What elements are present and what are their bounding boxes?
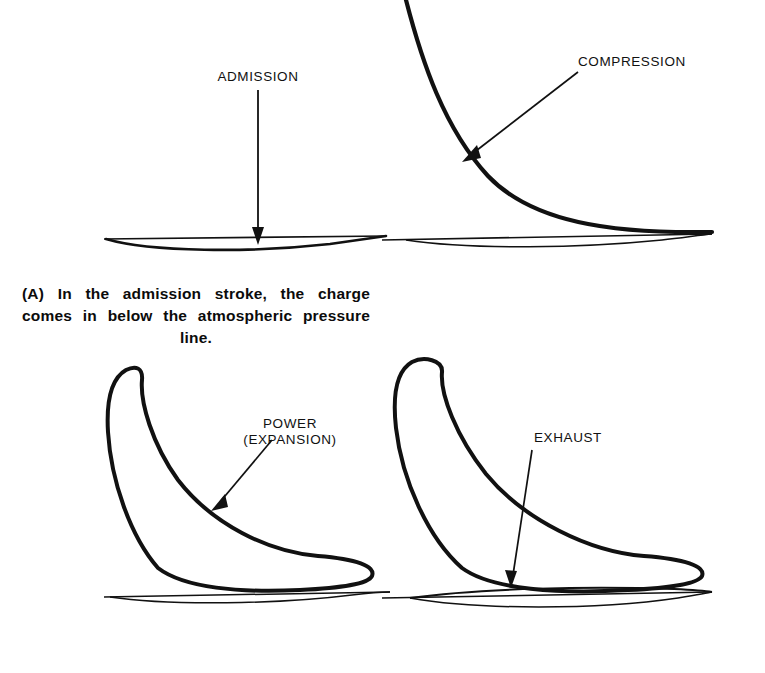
compression-arrow-shaft xyxy=(472,72,578,154)
compression-label: COMPRESSION xyxy=(578,54,686,69)
power-label: POWER xyxy=(263,416,317,431)
atmospheric-pressure-line xyxy=(382,234,712,240)
exhaust-indicator-diagram: EXHAUST xyxy=(382,340,765,673)
power-arrow-head xyxy=(211,494,228,511)
compression-curve xyxy=(406,0,712,232)
panel-admission: ADMISSION (A) In the admission stroke, t… xyxy=(0,0,390,340)
panel-power: POWER (EXPANSION) (C) In the power strok… xyxy=(0,340,390,673)
panel-exhaust: EXHAUST (D) In the exhaust stroke, all t… xyxy=(382,340,765,673)
four-stroke-cycle-figure: ADMISSION (A) In the admission stroke, t… xyxy=(0,0,765,673)
exhaust-return-curve xyxy=(406,234,712,247)
power-indicator-diagram: POWER (EXPANSION) xyxy=(0,340,390,673)
power-arrow-shaft xyxy=(220,440,272,502)
panel-compression: COMPRESSION (B) In the compression strok… xyxy=(382,0,765,340)
atmospheric-pressure-line xyxy=(104,236,386,239)
compression-indicator-diagram: COMPRESSION xyxy=(382,0,765,340)
exhaust-label: EXHAUST xyxy=(534,430,602,445)
expansion-label: (EXPANSION) xyxy=(243,432,336,447)
lower-lens-curve xyxy=(110,592,390,603)
exhaust-expansion-loop xyxy=(395,359,703,591)
admission-arrow-head xyxy=(252,227,264,245)
admission-label: ADMISSION xyxy=(217,69,298,84)
